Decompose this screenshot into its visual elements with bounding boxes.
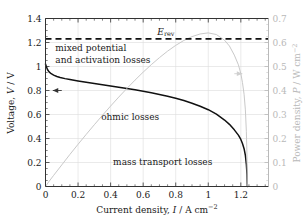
y-axis-title-variable: V xyxy=(6,87,16,94)
y-tick-label: 0.4 xyxy=(27,134,41,143)
y2-tick-label: 0.3 xyxy=(273,110,287,119)
y2-tick-label: 0.6 xyxy=(273,38,287,47)
erev-reference-label: Erev xyxy=(157,27,174,38)
y2-tick-label: 0.5 xyxy=(273,62,287,71)
x-tick-label: 1.2 xyxy=(234,191,248,200)
erev-subscript: rev xyxy=(164,30,175,38)
y-tick-label: 1 xyxy=(36,62,42,71)
x-tick-label: 0.6 xyxy=(136,191,150,200)
y2-tick-label: 0.4 xyxy=(273,86,287,95)
mass-transport-losses-annotation: mass transport losses xyxy=(113,157,212,168)
y-tick-label: 0 xyxy=(36,182,42,191)
figure-container: 00.20.40.60.811.2 00.20.40.60.811.21.4 0… xyxy=(0,0,303,222)
x-tick-label: 0 xyxy=(43,191,49,200)
y-tick-label: 0.2 xyxy=(27,158,41,167)
mixed-potential-annotation-line1: mixed potential xyxy=(55,43,150,54)
y2-tick-label: 0.7 xyxy=(273,14,287,23)
y2-tick-label: 0 xyxy=(273,182,279,191)
x-tick-label: 1 xyxy=(205,191,211,200)
erev-symbol: E xyxy=(157,27,164,37)
x-tick-label: 0.8 xyxy=(169,191,183,200)
secondary-y-axis-title-prefix: Power density, xyxy=(292,93,302,162)
ohmic-losses-annotation: ohmic losses xyxy=(101,112,159,123)
y-tick-label: 0.6 xyxy=(27,110,41,119)
x-tick-label: 0.2 xyxy=(71,191,85,200)
y2-tick-label: 0.1 xyxy=(273,158,287,167)
secondary-y-axis-title-variable: P xyxy=(292,87,302,93)
x-tick-label: 0.4 xyxy=(103,191,117,200)
left-axis-arrow-head xyxy=(53,88,59,93)
y-tick-label: 1.2 xyxy=(27,38,41,47)
mixed-potential-annotation-line2: and activation losses xyxy=(55,55,150,66)
y-axis-title-prefix: Voltage, xyxy=(6,94,16,134)
polarisation-curve xyxy=(46,64,248,186)
y-axis-title: Voltage, V / V xyxy=(7,72,16,134)
y2-tick-label: 0.2 xyxy=(273,134,287,143)
x-axis-title: Current density, I / A cm−2 xyxy=(96,206,217,215)
x-axis-title-prefix: Current density, xyxy=(96,205,173,215)
x-axis-title-suffix: / A cm xyxy=(176,205,208,215)
x-axis-title-exponent: −2 xyxy=(208,203,218,211)
y-axis-title-suffix: / V xyxy=(6,72,16,87)
y-tick-label: 1.4 xyxy=(27,14,41,23)
y-tick-label: 0.8 xyxy=(27,86,41,95)
secondary-y-axis-title-exponent: −2 xyxy=(290,43,298,53)
secondary-y-axis-title-suffix: / W cm xyxy=(292,53,302,87)
mixed-potential-annotation: mixed potential and activation losses xyxy=(55,43,150,66)
secondary-y-axis-title: Power density, P / W cm−2 xyxy=(293,43,302,162)
